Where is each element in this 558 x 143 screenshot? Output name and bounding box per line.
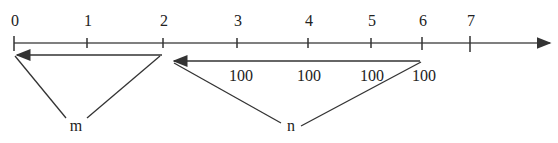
axis bbox=[14, 36, 550, 52]
tick-label-2: 2 bbox=[160, 13, 168, 29]
step-label: 100 bbox=[297, 68, 321, 84]
segment-m-arrow bbox=[15, 55, 162, 118]
tick-label-5: 5 bbox=[368, 13, 376, 29]
tick-label-0: 0 bbox=[11, 13, 19, 29]
tick-label-4: 4 bbox=[305, 13, 313, 29]
tick-label-1: 1 bbox=[84, 13, 92, 29]
step-label: 100 bbox=[412, 68, 436, 84]
tick-label-7: 7 bbox=[467, 13, 475, 29]
step-label: 100 bbox=[229, 68, 253, 84]
tick-label-3: 3 bbox=[234, 13, 242, 29]
tick-label-6: 6 bbox=[419, 13, 427, 29]
segment-m-label: m bbox=[70, 118, 82, 134]
segment-n-label: n bbox=[287, 118, 295, 134]
step-label: 100 bbox=[360, 68, 384, 84]
